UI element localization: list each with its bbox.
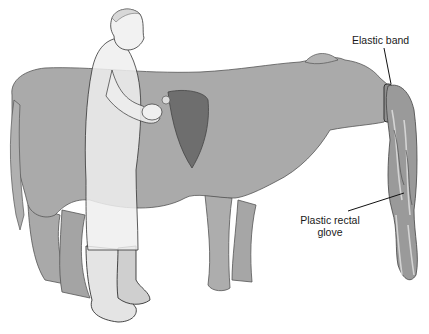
leader-line-elastic-band bbox=[384, 48, 391, 84]
plastic-rectal-glove bbox=[386, 85, 417, 280]
boot-right bbox=[117, 246, 150, 304]
cow-front-leg-back bbox=[232, 200, 256, 282]
person-hands bbox=[142, 104, 162, 120]
illustration bbox=[0, 0, 429, 334]
cow-front-leg-front bbox=[205, 195, 232, 291]
label-plastic-rectal-glove-line1: Plastic rectal bbox=[292, 214, 368, 226]
cow bbox=[10, 54, 392, 299]
label-plastic-rectal-glove-line2: glove bbox=[292, 226, 368, 238]
person-coat bbox=[85, 38, 141, 250]
label-elastic-band: Elastic band bbox=[352, 34, 409, 46]
cow-hind-leg-right bbox=[60, 210, 90, 298]
collection-bottle bbox=[162, 96, 170, 104]
label-plastic-rectal-glove: Plastic rectal glove bbox=[292, 214, 368, 238]
